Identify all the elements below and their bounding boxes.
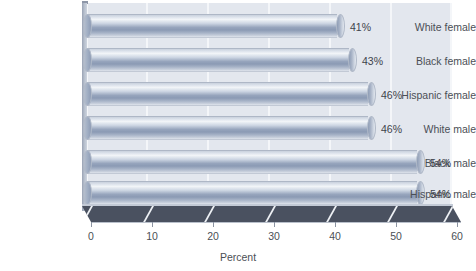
x-axis-tick [274,222,275,227]
base-tick [265,206,276,222]
category-label-white-male: White male [396,124,476,135]
bar-cap-right [367,116,376,140]
x-tick-label-40: 40 [320,231,350,242]
bar-body [87,181,417,205]
bar-cap-left [83,116,92,140]
bar-cap-left [83,14,92,38]
bar-white-female [87,14,341,38]
x-tick-label-30: 30 [259,231,289,242]
bar-cap-right [367,82,376,106]
bar-white-male [87,116,372,140]
bar-black-male [87,150,421,174]
x-axis-tick [152,222,153,227]
bar-cap-left [83,48,92,72]
bar-hispanic-female [87,82,372,106]
value-label-white-male: 46% [381,124,402,135]
base-tick [387,206,398,222]
x-axis-tick [213,222,214,227]
gridline [450,3,452,208]
bar-body [87,14,337,38]
gridline [390,3,392,208]
value-label-hispanic-female: 46% [381,90,402,101]
x-tick-label-10: 10 [137,231,167,242]
x-tick-label-20: 20 [198,231,228,242]
bar-hispanic-male [87,181,421,205]
x-tick-label-50: 50 [381,231,411,242]
bar-cap-right [348,48,357,72]
x-axis-tick [335,222,336,227]
base-tick [204,206,215,222]
base-tick [143,206,154,222]
bar-body [87,116,368,140]
bar-body [87,82,368,106]
x-tick-label-0: 0 [76,231,106,242]
base-tick [443,206,454,222]
x-axis-tick [457,222,458,227]
category-label-hispanic-female: Hispanic female [396,90,476,101]
x-axis-line [91,222,461,223]
base-tick [82,206,93,222]
bar-chart: White female Black female Hispanic femal… [0,0,476,271]
category-label-black-female: Black female [396,56,476,67]
bar-cap-right [336,14,345,38]
bar-black-female [87,48,353,72]
value-label-black-female: 43% [362,56,383,67]
category-label-white-female: White female [396,22,476,33]
bar-cap-left [83,82,92,106]
x-axis-tick [396,222,397,227]
x-axis-title: Percent [0,252,476,263]
bar-cap-left [83,181,92,205]
base-tick [326,206,337,222]
x-tick-label-60: 60 [442,231,472,242]
x-axis-tick [91,222,92,227]
bar-cap-left [83,150,92,174]
base-slab [82,206,461,222]
value-label-white-female: 41% [350,22,371,33]
value-label-black-male: 54% [430,158,451,169]
bar-body [87,48,349,72]
value-label-hispanic-male: 54% [430,189,451,200]
bar-body [87,150,417,174]
